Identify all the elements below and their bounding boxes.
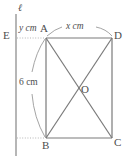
- vertex-label-c: C: [114, 137, 121, 148]
- dimension-arc-ab-lower: [32, 94, 45, 137]
- geometry-figure: ℓ E y cm A x cm D 6 cm O B C: [0, 0, 127, 160]
- vertex-label-e: E: [3, 30, 10, 41]
- dimension-arc-ad-left: [47, 27, 62, 36]
- vertex-label-a: A: [40, 23, 48, 34]
- dimension-arc-ad-right: [96, 27, 112, 36]
- dimension-label-x-cm: x cm: [66, 22, 84, 32]
- vertex-label-b: B: [42, 140, 49, 151]
- dimension-label-6-cm: 6 cm: [19, 78, 38, 88]
- dimension-label-y-cm: y cm: [19, 24, 37, 34]
- line-label-l: ℓ: [18, 3, 22, 13]
- dimension-arc-ab-upper: [32, 39, 45, 72]
- vertex-label-o: O: [81, 84, 89, 95]
- vertex-label-d: D: [114, 30, 122, 41]
